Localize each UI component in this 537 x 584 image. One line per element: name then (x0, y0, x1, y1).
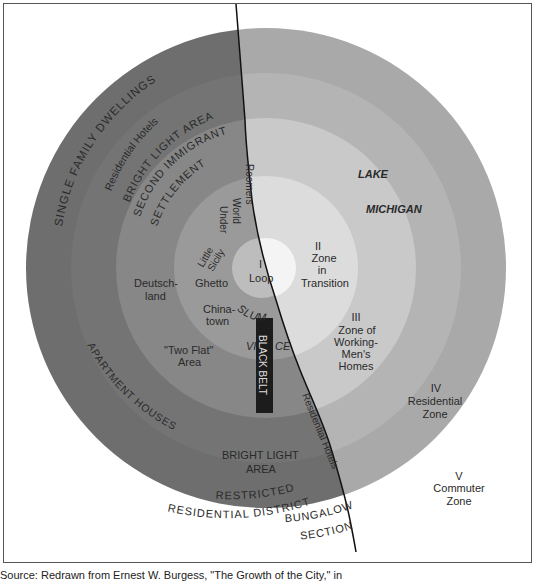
zone-iii-line1: Zone of (338, 324, 376, 336)
label-bright-light-bottom-2: AREA (246, 463, 277, 475)
zone-v-line1: Commuter (433, 482, 485, 494)
label-deutschland-2: land (145, 290, 166, 302)
label-chinatown-1: China- (203, 303, 236, 315)
zone-i-name: Loop (249, 272, 273, 284)
label-two-flat-1: "Two Flat" (164, 344, 213, 356)
zone-iv-line1: Residential (408, 395, 462, 407)
label-ghetto: Ghetto (195, 277, 228, 289)
label-vice-v: VI (246, 340, 256, 352)
zone-iii-line3: Men's (342, 348, 371, 360)
label-under: Under (218, 206, 229, 234)
zone-iii-numeral: III (351, 311, 360, 323)
concentric-zone-diagram: SINGLE FAMILY DWELLINGS Residential Hote… (0, 0, 537, 584)
zone-iv-line2: Zone (422, 408, 447, 420)
label-section: SECTION (299, 519, 354, 542)
label-vice-ce: CE (275, 340, 291, 352)
zone-ii-line1: Zone (311, 252, 336, 264)
zone-v-line2: Zone (446, 495, 471, 507)
source-caption: Source: Redrawn from Ernest W. Burgess, … (0, 569, 342, 581)
label-two-flat-2: Area (178, 356, 202, 368)
zone-iii-line2: Working- (334, 336, 378, 348)
zone-ii-numeral: II (315, 240, 321, 252)
label-deutschland-1: Deutsch- (134, 277, 178, 289)
zone-ii-line3: Transition (301, 277, 349, 289)
zone-v-numeral: V (455, 470, 463, 482)
label-world: World (231, 198, 242, 224)
zone-i-numeral: I (259, 258, 262, 270)
label-michigan: MICHIGAN (366, 203, 423, 215)
label-black-belt: BLACK BELT (257, 335, 268, 395)
label-bright-light-bottom-1: BRIGHT LIGHT (222, 449, 299, 461)
zone-ii-line2: in (318, 264, 327, 276)
label-roomers: Roomers (244, 164, 255, 205)
zone-iii-line4: Homes (339, 360, 374, 372)
zone-iv-numeral: IV (431, 382, 442, 394)
label-chinatown-2: town (206, 315, 229, 327)
label-lake: LAKE (358, 168, 389, 180)
